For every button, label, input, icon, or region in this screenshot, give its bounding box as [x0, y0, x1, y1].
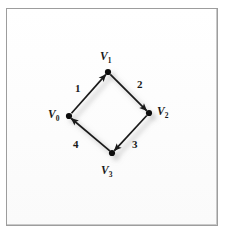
vertex-label-v1: V1 — [100, 51, 111, 65]
vertex-label-v1-base: V — [100, 50, 108, 62]
edge-label-4: 4 — [73, 139, 79, 150]
vertex-dot-v3 — [109, 150, 115, 156]
edge-label-3: 3 — [132, 139, 138, 150]
vertex-dot-v1 — [105, 69, 111, 75]
vertex-label-v2: V2 — [157, 106, 168, 120]
vertex-label-v3-subscript: 3 — [109, 170, 113, 179]
vertex-dot-v2 — [146, 110, 152, 116]
vertex-label-v1-subscript: 1 — [108, 56, 112, 65]
vertex-label-v3-base: V — [101, 164, 109, 176]
figure-page: V1 V2 V0 V3 1 2 3 4 — [0, 0, 230, 239]
vertex-label-v0: V0 — [48, 109, 59, 123]
vertex-label-v2-base: V — [157, 105, 165, 117]
edge-label-1: 1 — [75, 83, 81, 94]
vertex-label-v0-subscript: 0 — [56, 114, 60, 123]
vertex-label-v0-base: V — [48, 108, 56, 120]
vertex-dot-v0 — [66, 113, 72, 119]
vertex-label-v3: V3 — [101, 165, 112, 179]
vertex-label-v2-subscript: 2 — [165, 111, 169, 120]
directed-graph-drawing — [6, 8, 218, 226]
edge-3-v2-to-v3 — [114, 116, 146, 151]
edge-label-2: 2 — [137, 79, 143, 90]
